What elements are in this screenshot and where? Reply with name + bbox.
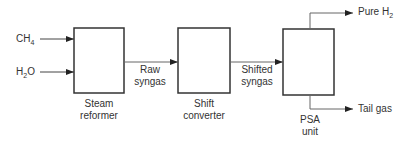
ch4-subscript: 4 <box>30 39 34 46</box>
raw-syngas-label: Rawsyngas <box>134 64 166 88</box>
psa-unit-label: PSAunit <box>300 114 320 138</box>
psa-unit-box <box>283 29 334 95</box>
process-flow-diagram <box>0 0 408 144</box>
pure-h2-text: Pure H <box>358 6 389 17</box>
shift-converter-line2: converter <box>183 110 225 122</box>
psa-unit-line1: PSA <box>300 114 320 126</box>
pure-h2-arrow <box>310 13 353 29</box>
h2o-text-o: O <box>27 66 35 77</box>
raw-syngas-line2: syngas <box>134 76 166 88</box>
tail-gas-arrow <box>310 95 353 109</box>
h2o-label: H2O <box>16 66 35 82</box>
steam-reformer-box <box>74 28 124 93</box>
shifted-syngas-line2: syngas <box>241 76 273 88</box>
shift-converter-line1: Shift <box>183 98 225 110</box>
steam-reformer-line1: Steam <box>80 98 118 110</box>
pure-h2-subscript: 2 <box>389 12 393 19</box>
steam-reformer-line2: reformer <box>80 110 118 122</box>
pure-h2-label: Pure H2 <box>358 6 393 22</box>
shift-converter-label: Shiftconverter <box>183 98 225 122</box>
shifted-syngas-line1: Shifted <box>241 64 273 76</box>
shifted-syngas-label: Shiftedsyngas <box>241 64 273 88</box>
ch4-text: CH <box>16 33 30 44</box>
tail-gas-label: Tail gas <box>358 103 392 115</box>
steam-reformer-label: Steamreformer <box>80 98 118 122</box>
shift-converter-box <box>178 28 230 93</box>
ch4-label: CH4 <box>16 33 34 49</box>
psa-unit-line2: unit <box>300 126 320 138</box>
raw-syngas-line1: Raw <box>134 64 166 76</box>
